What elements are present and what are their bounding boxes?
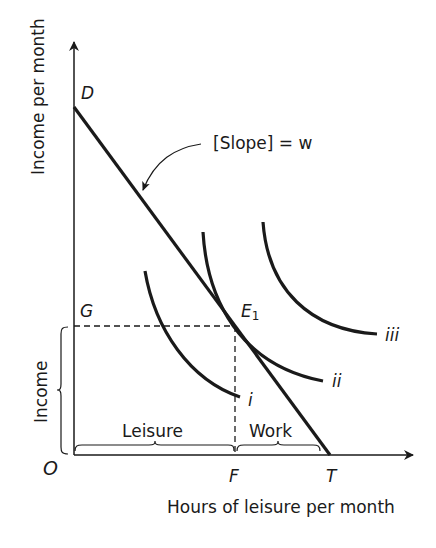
slope-pointer-arrow	[143, 144, 201, 190]
indifference-curve-i	[145, 271, 240, 397]
indifference-curve-ii	[203, 232, 323, 381]
slope-annotation-text: [Slope] = w	[213, 133, 312, 153]
point-label-T: T	[326, 468, 336, 485]
diagram-canvas	[0, 0, 436, 548]
indifference-curve-iii	[263, 222, 377, 334]
origin-label: O	[43, 459, 58, 478]
income-brace-label: Income	[31, 360, 51, 423]
leisure-brace-label: Leisure	[122, 423, 183, 440]
point-label-G: G	[80, 303, 93, 320]
curve-label-ii: ii	[332, 373, 341, 390]
y-axis-label: Income per month	[28, 18, 48, 175]
leisure-brace	[75, 441, 234, 451]
point-label-E1-main: E	[241, 301, 252, 321]
x-axis-label: Hours of leisure per month	[167, 499, 395, 516]
income-brace	[57, 327, 68, 454]
work-brace-label: Work	[249, 423, 292, 440]
budget-line	[74, 107, 330, 455]
point-label-D: D	[81, 85, 94, 102]
curve-label-i: i	[248, 392, 253, 409]
point-label-E1: E1	[241, 303, 259, 322]
work-brace	[237, 441, 320, 451]
point-label-F: F	[229, 468, 239, 485]
curve-label-iii: iii	[385, 327, 399, 344]
slope-annotation: [Slope] = w	[213, 135, 312, 152]
point-label-E1-sub: 1	[252, 309, 260, 323]
